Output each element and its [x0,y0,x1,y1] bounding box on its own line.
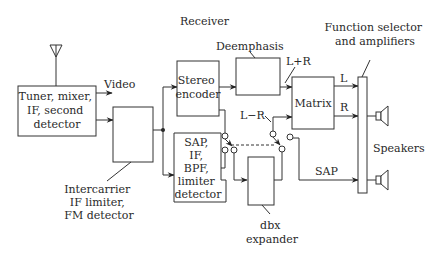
svg-text:dbx expander: dbx expander [246,219,299,246]
stereo-encoder-label-line-2: encoder [175,88,221,101]
dbx-output-wire [274,152,282,180]
antenna-icon [50,45,62,86]
speakers-label: Speakers [373,142,425,155]
sap-to-switch-wire [221,153,225,168]
function-selector-label-line-2: and amplifiers [335,35,415,48]
intercarrier-block [113,107,153,162]
dbx-label-line-1: dbx [260,219,281,232]
to-sap-wire [163,130,174,175]
tuner-label-line-2: IF, second [27,104,83,117]
right-label: R [340,101,349,114]
deemphasis-label: Deemphasis [216,40,284,53]
receiver-title: Receiver [180,15,230,28]
dbx-expander-block [248,157,274,205]
matrix-label: Matrix [294,97,332,110]
stereo-encoder-block: Stereo encoder [175,61,221,116]
sap-label-line-2: IF, [189,149,203,162]
svg-text:Intercarrier IF limiter,: Intercarrier IF limiter, FM detector [64,183,134,222]
tuner-label-line-3: detector [34,118,82,131]
switch-to-dbx-wire [234,153,247,180]
switch-left[interactable] [222,133,237,153]
stereo-encoder-label-line-1: Stereo [178,74,215,87]
speaker-lower-icon [367,170,388,190]
sap-label-line-1: SAP, [184,136,208,149]
tuner-block: Tuner, mixer, IF, second detector [18,86,96,136]
function-selector-bar [358,77,367,193]
sap-block: SAP, IF, BPF, limiter detector [174,133,226,202]
dbx-leader-line [262,205,270,214]
dbx-label-line-2: expander [246,233,299,246]
svg-text:Function selector and ampl: Function selector and amplifiers [324,21,425,48]
l-minus-r-leader-line [265,116,271,122]
deemphasis-block [236,58,280,95]
intercarrier-label-line-3: FM detector [64,209,134,222]
left-label: L [340,72,348,85]
video-label: Video [103,78,136,91]
speaker-upper-icon [367,106,388,126]
tuner-label-line-1: Tuner, mixer, [19,90,92,103]
encoder-l-minus-r-wire [219,110,225,134]
svg-text:Stereo encoder: Stereo encoder [175,74,221,101]
sap-label-line-4: limiter [178,175,216,188]
l-plus-r-label: L+R [286,55,312,68]
intercarrier-label-line-2: IF limiter, [70,196,125,209]
matrix-block: Matrix [292,77,334,129]
intercarrier-label-line-1: Intercarrier [64,183,131,196]
function-selector-label-line-1: Function selector [324,21,422,34]
intercarrier-leader-line [107,162,131,181]
stereo-tv-receiver-block-diagram: Receiver Tuner, mixer, IF, second detect… [0,0,435,254]
l-minus-r-wire [273,117,292,131]
sap-label-line-5: detector [175,188,223,201]
sap-label-line-3: BPF, [184,162,209,175]
function-selector-leader-line [362,60,370,77]
l-minus-r-label: L−R [240,109,266,122]
sap-signal-label: SAP [315,165,338,178]
switch-right[interactable] [270,131,293,152]
